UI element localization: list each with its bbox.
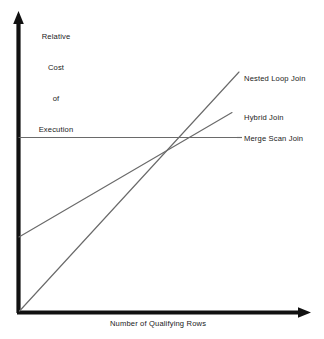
y-axis-title-line-1: Relative <box>23 32 89 42</box>
series-label-hybrid-join: Hybrid Join <box>244 113 284 122</box>
series-label-merge-scan-join: Merge Scan Join <box>244 134 303 143</box>
x-axis-title: Number of Qualifying Rows <box>58 319 258 329</box>
y-axis-title-line-3: of <box>23 94 89 104</box>
series-label-nested-loop-join: Nested Loop Join <box>244 74 306 83</box>
y-axis-title: Relative Cost of Execution <box>23 11 89 157</box>
y-axis-title-line-2: Cost <box>23 63 89 73</box>
y-axis-title-line-4: Execution <box>23 125 89 135</box>
chart-figure: Relative Cost of Execution Number of Qua… <box>0 0 324 339</box>
x-axis-arrowhead <box>298 307 311 318</box>
